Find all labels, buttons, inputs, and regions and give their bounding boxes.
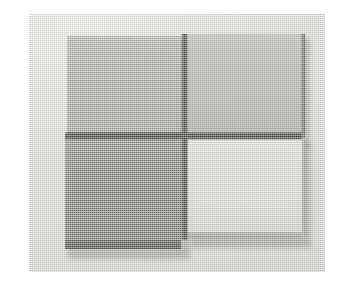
screenshot-root	[0, 0, 346, 300]
tile-top-right-sheen	[188, 34, 301, 133]
tile-bottom-left	[65, 140, 181, 240]
tile-top-left-sheen	[67, 36, 181, 132]
tile-bottom-right-sheen	[188, 139, 302, 232]
seam-horizontal	[65, 132, 302, 140]
tile-bottom-left-sheen	[65, 140, 181, 240]
tile-top-right	[188, 34, 301, 133]
tile-side-right-bottom-right	[302, 139, 306, 238]
tile-side-bottom-right	[188, 232, 302, 238]
photograph	[29, 14, 325, 272]
tile-side-right-top-right	[301, 34, 305, 138]
tile-side-bottom-left	[65, 240, 181, 249]
tile-top-left	[67, 36, 181, 132]
tile-grid	[29, 14, 325, 272]
tile-bottom-right	[188, 139, 302, 232]
